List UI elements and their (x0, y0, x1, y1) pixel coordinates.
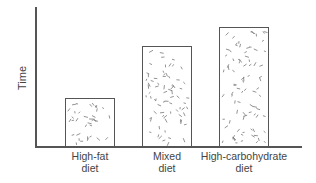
stipple-pattern-icon (143, 47, 191, 146)
y-axis-label: Time (16, 66, 28, 90)
bar-high-carbohydrate (219, 27, 269, 147)
y-axis (35, 7, 37, 147)
bar-mixed (142, 46, 192, 147)
stipple-pattern-icon (220, 28, 268, 146)
bar-high-fat (65, 98, 115, 147)
stipple-pattern-icon (66, 99, 114, 146)
x-tick-label-high-carbohydrate: High-carbohydrate diet (194, 150, 294, 174)
